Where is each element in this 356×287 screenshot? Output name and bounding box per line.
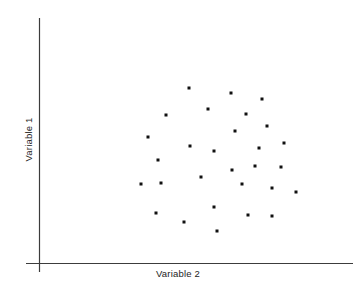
data-point [254,165,257,168]
data-point [207,108,210,111]
data-point [247,214,250,217]
data-point [283,142,286,145]
x-axis-label: Variable 2 [0,268,356,279]
data-point [261,98,264,101]
data-point [266,125,269,128]
data-point [271,215,274,218]
data-point [160,182,163,185]
data-point [140,183,143,186]
data-point [280,166,283,169]
data-point [258,147,261,150]
data-point [189,145,192,148]
data-point [271,187,274,190]
data-point [200,176,203,179]
data-point [188,87,191,90]
data-point-group [140,87,298,233]
data-point [213,150,216,153]
data-point [213,206,216,209]
data-point [230,92,233,95]
y-axis-label: Variable 1 [23,98,34,182]
data-point [216,230,219,233]
data-point [157,159,160,162]
data-point [245,113,248,116]
data-point [295,191,298,194]
data-point [147,136,150,139]
scatter-plot-figure: Variable 1 Variable 2 [0,0,356,287]
data-point [183,221,186,224]
data-point [234,130,237,133]
data-point [155,212,158,215]
data-point [165,114,168,117]
y-axis-label-container: Variable 1 [0,98,56,182]
data-point [241,183,244,186]
data-point [231,169,234,172]
